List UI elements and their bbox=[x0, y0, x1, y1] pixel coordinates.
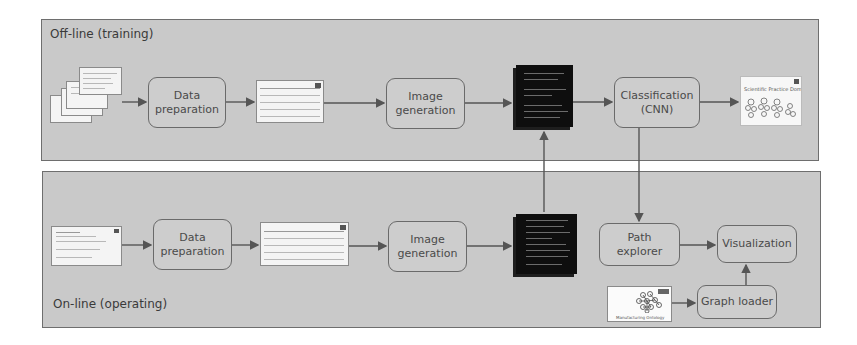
flow-arrows bbox=[0, 0, 857, 345]
